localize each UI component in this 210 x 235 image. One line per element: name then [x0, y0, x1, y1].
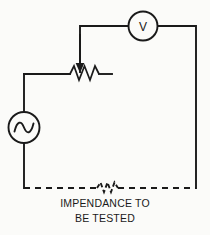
- ac-source-icon: [9, 112, 40, 143]
- potentiometer-zigzag: [70, 66, 99, 80]
- circuit-diagram: V IMPENDANCE TO BE TESTED: [0, 0, 210, 235]
- voltmeter-icon: V: [129, 12, 158, 41]
- impedance-icon: [24, 183, 196, 193]
- voltmeter-label: V: [139, 20, 147, 34]
- caption-line-2: BE TESTED: [0, 212, 210, 224]
- wire-top-left-segment: [80, 26, 128, 72]
- caption-line-1: IMPENDANCE TO: [0, 197, 210, 209]
- impedance-zigzag: [97, 183, 118, 193]
- variable-resistor-icon: [70, 34, 99, 80]
- wire-top-right-segment: [158, 26, 196, 188]
